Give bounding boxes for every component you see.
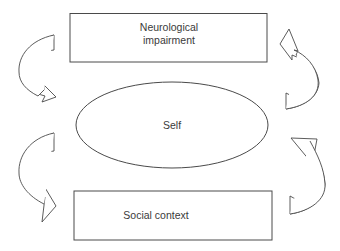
neurological-impairment-label: Neurological impairment — [70, 21, 268, 47]
left-upper-curved-arrow-icon — [19, 35, 56, 102]
self-label-line-1: Self — [77, 119, 267, 132]
diagram-canvas: Neurological impairment Self Social cont… — [0, 0, 340, 251]
social-context-label: Social context — [74, 209, 238, 222]
neurological-impairment-label-line-1: Neurological — [70, 21, 268, 34]
neurological-impairment-label-line-2: impairment — [70, 34, 268, 47]
left-lower-curved-arrow-icon — [19, 133, 56, 222]
right-lower-curved-arrow-icon — [290, 138, 325, 214]
right-upper-curved-arrow-icon — [280, 29, 319, 109]
social-context-label-line-1: Social context — [74, 209, 238, 222]
self-label: Self — [77, 119, 267, 132]
